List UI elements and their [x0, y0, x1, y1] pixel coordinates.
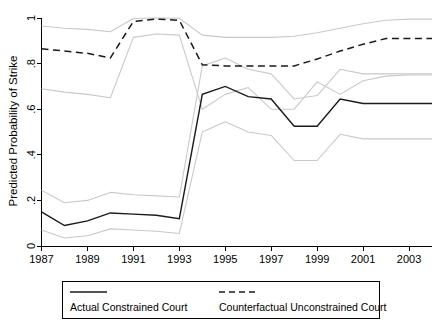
plot-series-group: [42, 18, 433, 238]
x-axis-tick-label: 2001: [351, 253, 375, 265]
y-axis-tick-label: 0: [25, 243, 37, 249]
y-axis-tick-label: 1: [25, 15, 37, 21]
y-axis-title: Predicted Probability of Strike: [7, 56, 19, 207]
series-line-counterfactual-unconstrained-court: [42, 19, 433, 66]
x-axis-tick-label: 2003: [397, 253, 421, 265]
x-axis-tick-label: 1997: [259, 253, 283, 265]
y-axis-tick-label: .6: [25, 105, 37, 114]
x-axis-tick-label: 1987: [29, 253, 53, 265]
legend: Actual Constrained Court Counterfactual …: [63, 282, 387, 319]
y-axis-title-group: Predicted Probability of Strike: [7, 56, 19, 207]
x-axis-tick-label: 1989: [75, 253, 99, 265]
x-axis-tick-label: 1999: [305, 253, 329, 265]
y-axis-tick-labels: 0.2.4.6.81: [25, 15, 37, 249]
series-line-actual-constrained-court: [42, 86, 433, 225]
series-line-counterfactual-unconstrained-court-ci-lower: [42, 34, 433, 109]
x-axis-tick-labels: 198719891991199319951997199920012003: [29, 253, 421, 265]
legend-label-actual-constrained-court: Actual Constrained Court: [70, 301, 187, 313]
predicted-probability-line-chart: Predicted Probability of Strike 0.2.4.6.…: [0, 0, 442, 327]
series-line-counterfactual-unconstrained-court-ci-upper: [42, 18, 433, 37]
series-line-actual-constrained-court-ci-lower: [42, 122, 433, 238]
chart-figure: Predicted Probability of Strike 0.2.4.6.…: [0, 0, 442, 327]
y-axis-tick-label: .4: [25, 150, 37, 159]
legend-label-counterfactual-unconstrained-court: Counterfactual Unconstrained Court: [219, 301, 387, 313]
axis-frame: [37, 18, 433, 251]
x-axis-tick-label: 1995: [213, 253, 237, 265]
x-axis-tick-label: 1993: [167, 253, 191, 265]
series-line-actual-constrained-court-ci-upper: [42, 58, 433, 203]
x-axis-tick-label: 1991: [121, 253, 145, 265]
x-axis-ticks: [42, 246, 410, 251]
y-axis-tick-label: .8: [25, 59, 37, 68]
y-axis-ticks: [37, 18, 42, 246]
y-axis-tick-label: .2: [25, 196, 37, 205]
